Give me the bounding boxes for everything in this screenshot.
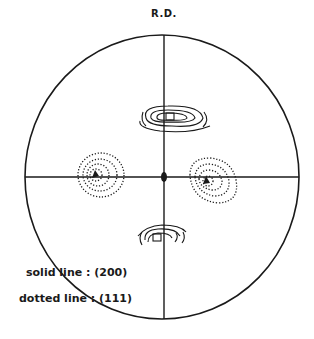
center-pole-marker — [161, 172, 167, 182]
left-111-contours — [78, 153, 124, 197]
pole-figure — [0, 0, 314, 339]
top-200-contours — [140, 106, 210, 132]
bottom-200-contours — [138, 225, 186, 245]
right-111-contours — [190, 158, 237, 203]
legend-dotted-line: dotted line : (111) — [19, 292, 132, 305]
rolling-direction-label: R.D. — [151, 8, 177, 19]
legend-solid-line: solid line : (200) — [26, 266, 127, 279]
